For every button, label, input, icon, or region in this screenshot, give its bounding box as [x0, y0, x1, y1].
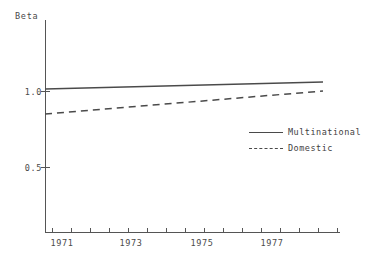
- legend-entry-domestic: Domestic: [249, 142, 373, 158]
- legend-label-domestic: Domestic: [288, 142, 333, 155]
- legend-entry-multinational: Multinational: [249, 126, 373, 142]
- series-line-multinational: [45, 82, 323, 89]
- beta-line-chart: Beta 1.00.5 1971197319751977 Multination…: [0, 0, 373, 266]
- legend-swatch-solid-icon: [249, 132, 283, 133]
- chart-legend: Multinational Domestic: [249, 126, 373, 158]
- series-line-domestic: [45, 91, 323, 114]
- legend-swatch-dashed-icon: [249, 148, 283, 149]
- legend-label-multinational: Multinational: [288, 126, 361, 139]
